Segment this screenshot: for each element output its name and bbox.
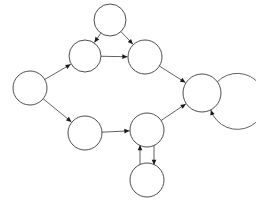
graph-node-n6[interactable] [130, 113, 164, 147]
graph-node-n0[interactable] [13, 71, 47, 105]
graph-node-n5[interactable] [68, 116, 102, 150]
graph-node-n3[interactable] [128, 40, 162, 74]
edge-layer [43, 32, 256, 165]
arrowhead-e10 [210, 110, 214, 116]
arrowhead-e4 [122, 54, 127, 59]
graph-node-n4[interactable] [183, 74, 221, 112]
graph-canvas [0, 0, 256, 203]
graph-node-n1[interactable] [69, 40, 101, 72]
arrowhead-e5 [180, 78, 186, 83]
node-layer [13, 4, 221, 197]
graph-node-n2[interactable] [94, 4, 126, 36]
arrowhead-e0 [65, 64, 71, 69]
arrowhead-e2 [94, 37, 99, 43]
edge-e1 [43, 99, 71, 122]
arrowhead-e6 [124, 129, 129, 134]
arrowhead-e7 [180, 104, 186, 109]
graph-node-n7[interactable] [130, 163, 164, 197]
